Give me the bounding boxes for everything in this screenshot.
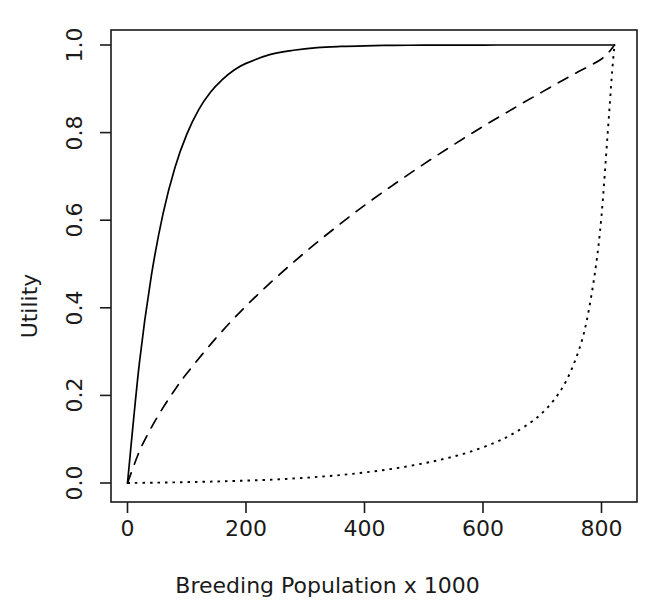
x-axis-title: Breeding Population x 1000 [175, 575, 479, 597]
series-line-mildly-concave [128, 45, 615, 483]
plot-area-svg [0, 0, 655, 611]
chart-figure: 0200400600800 0.00.20.40.60.81.0 Breedin… [0, 0, 655, 611]
plot-box [111, 30, 637, 502]
x-tick-label: 200 [225, 518, 267, 540]
y-tick-label: 0.6 [64, 203, 86, 238]
y-tick-label: 0.4 [64, 290, 86, 325]
y-axis-title: Utility [19, 273, 41, 338]
x-tick-label: 800 [581, 518, 623, 540]
data-series-group [128, 45, 615, 483]
x-axis-ticks [128, 502, 602, 513]
y-tick-label: 1.0 [64, 28, 86, 63]
y-tick-label: 0.2 [64, 378, 86, 413]
y-tick-label: 0.8 [64, 115, 86, 150]
series-line-concave-risk-averse [128, 45, 615, 483]
series-line-convex-risk-prone [128, 45, 615, 483]
x-tick-label: 400 [344, 518, 386, 540]
y-axis-ticks [100, 45, 111, 483]
y-tick-label: 0.0 [64, 466, 86, 501]
x-tick-label: 600 [462, 518, 504, 540]
x-tick-label: 0 [121, 518, 135, 540]
